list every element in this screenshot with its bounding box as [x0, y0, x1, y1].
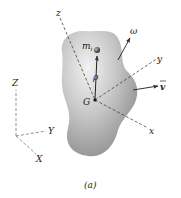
label-Z: Z	[11, 78, 19, 88]
center-of-mass	[93, 98, 96, 101]
global-axes	[16, 90, 46, 154]
particle-mi	[94, 47, 100, 53]
label-G: G	[83, 97, 90, 107]
label-y: y	[156, 54, 163, 64]
label-x: x	[149, 126, 154, 136]
label-rho: ρ	[92, 72, 99, 82]
label-z: z	[55, 8, 61, 18]
rigid-body-diagram: z y x G mi ρ ω v Z Y X (a)	[0, 0, 181, 198]
caption: (a)	[84, 180, 97, 190]
label-X: X	[35, 154, 43, 164]
label-Y: Y	[48, 126, 55, 136]
label-omega: ω	[130, 26, 138, 36]
label-v: v	[160, 82, 166, 92]
